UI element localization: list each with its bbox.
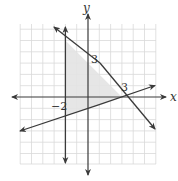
- x-axis-label: x: [170, 90, 177, 104]
- x-intercept-label: 3: [121, 81, 128, 94]
- y-axis-label: y: [82, 1, 90, 15]
- y-intercept-label: 3: [91, 53, 98, 66]
- neg2-label: −2: [51, 100, 67, 113]
- graph: y x 3 3 −2: [0, 0, 178, 181]
